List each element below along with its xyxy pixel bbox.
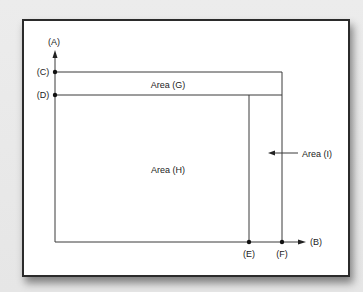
area-i-label: Area (I) xyxy=(302,149,332,159)
area-i-callout: Area (I) xyxy=(268,149,332,159)
area-i-arrow-icon xyxy=(268,151,275,156)
point-e-label: (E) xyxy=(243,249,255,259)
x-axis-label: (B) xyxy=(310,237,322,247)
point-d-label: (D) xyxy=(37,90,50,100)
point-c: (C) xyxy=(37,67,57,77)
point-f-dot-icon xyxy=(280,240,284,244)
y-axis: (A) xyxy=(48,37,60,242)
y-axis-arrow-icon xyxy=(53,50,58,58)
point-d-dot-icon xyxy=(53,93,57,97)
point-f: (F) xyxy=(276,240,288,259)
area-g-label: Area (G) xyxy=(151,80,186,90)
area-boundaries xyxy=(55,72,282,242)
point-d: (D) xyxy=(37,90,57,100)
area-diagram: (A) (B) (C) (D) (E) (F) Area (G) Area (H… xyxy=(0,0,363,292)
point-f-label: (F) xyxy=(276,249,288,259)
y-axis-label: (A) xyxy=(48,37,60,47)
point-c-dot-icon xyxy=(53,70,57,74)
point-e-dot-icon xyxy=(247,240,251,244)
point-c-label: (C) xyxy=(37,67,50,77)
point-e: (E) xyxy=(243,240,255,259)
area-h-label: Area (H) xyxy=(151,165,185,175)
x-axis-arrow-icon xyxy=(298,240,306,245)
